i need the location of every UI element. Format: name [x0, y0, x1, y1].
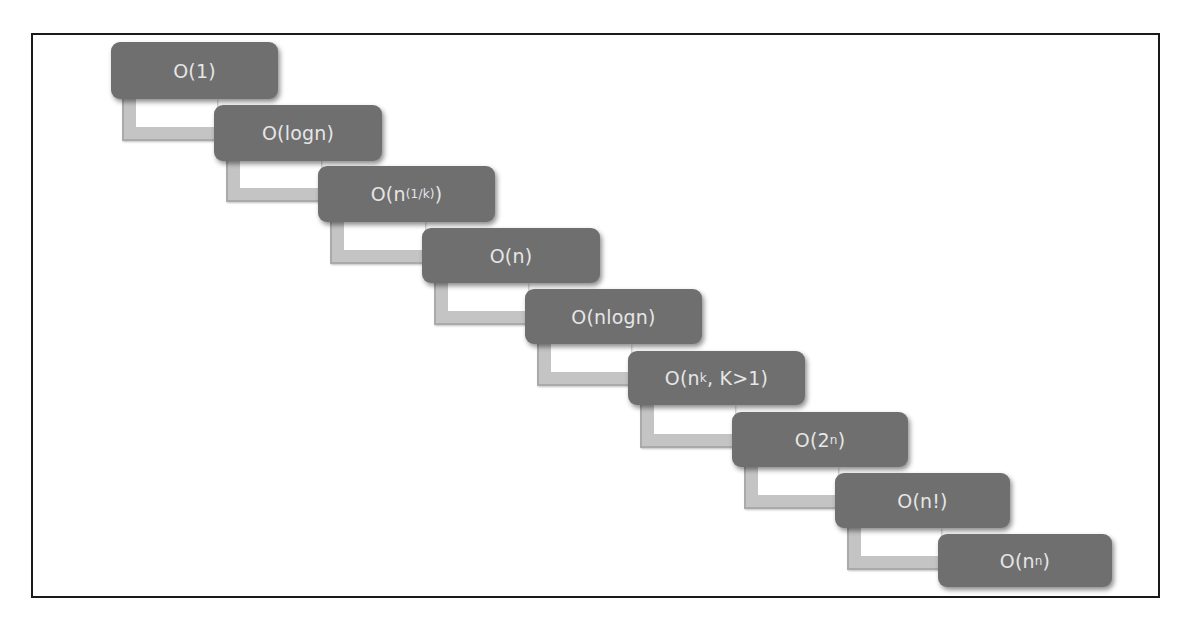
- node-o-1: O(1): [111, 42, 278, 99]
- node-o-2-n: O(2n): [732, 412, 908, 467]
- connector-3-4: [330, 221, 425, 264]
- node-o-n-k: O(nk, K>1): [628, 351, 805, 405]
- connector-5-6: [537, 344, 631, 386]
- connector-4-5: [434, 283, 528, 325]
- node-o-n-factorial: O(n!): [835, 473, 1010, 528]
- connector-8-9: [847, 528, 941, 570]
- connector-1-2: [122, 99, 217, 141]
- node-o-logn: O(logn): [214, 105, 382, 161]
- connector-6-7: [640, 405, 735, 448]
- node-o-nlogn: O(nlogn): [525, 289, 702, 344]
- connector-7-8: [744, 467, 838, 509]
- node-o-n-root-k: O(n(1/k)): [318, 166, 495, 222]
- connector-2-3: [226, 160, 321, 202]
- node-o-n: O(n): [422, 228, 600, 283]
- node-o-n-n: O(nn): [938, 534, 1112, 587]
